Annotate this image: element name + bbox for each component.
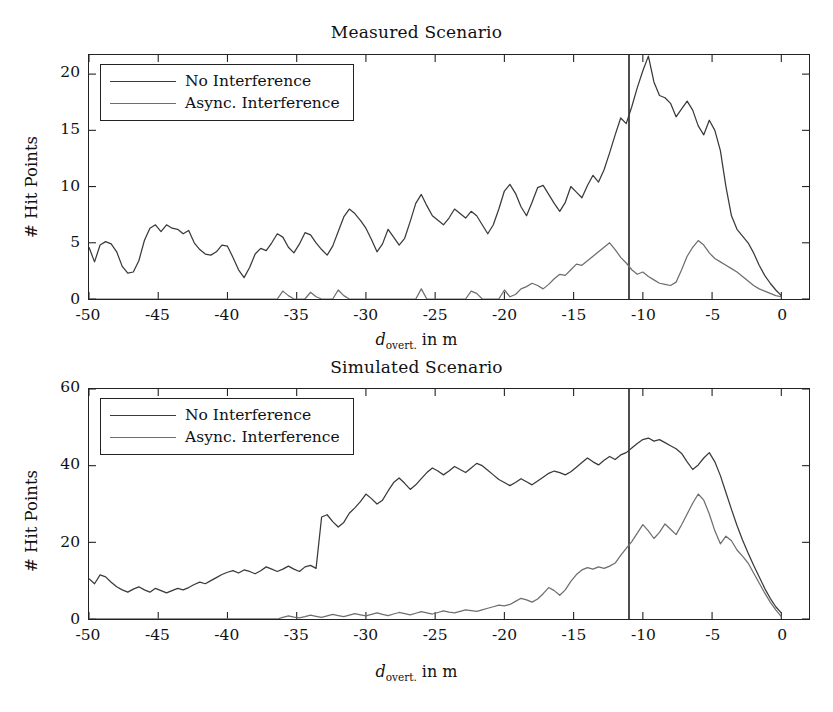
x-tick-label: 0 — [756, 306, 808, 324]
x-tick-label: -15 — [548, 306, 600, 324]
legend-simulated: No Interference Async. Interference — [100, 398, 354, 455]
x-tick-label: -30 — [340, 306, 392, 324]
data-series-no-interference — [89, 438, 781, 613]
y-tick-label: 40 — [38, 455, 80, 473]
legend-entry-no-interference: No Interference — [110, 70, 344, 92]
data-series-async-interference — [89, 241, 781, 299]
x-axis-label-var: d — [375, 662, 385, 681]
x-axis-label-subscript: overt. — [386, 671, 417, 683]
x-tick-label: -5 — [687, 626, 739, 644]
y-tick-label: 0 — [38, 290, 80, 308]
x-tick-label: -20 — [479, 626, 531, 644]
x-tick-label: -20 — [479, 306, 531, 324]
legend-line-icon-async-interference — [110, 103, 176, 104]
chart-panel-measured: Measured Scenario # Hit Points dovert. i… — [0, 0, 833, 356]
y-tick-label: 0 — [38, 610, 80, 628]
x-tick-label: -35 — [270, 306, 322, 324]
x-tick-label: -10 — [617, 306, 669, 324]
x-tick-label: -25 — [409, 626, 461, 644]
legend-entry-async-interference: Async. Interference — [110, 426, 344, 448]
legend-line-icon-no-interference — [110, 81, 176, 82]
y-tick-label: 15 — [38, 120, 80, 138]
legend-line-icon-no-interference — [110, 415, 176, 416]
legend-entry-no-interference: No Interference — [110, 404, 344, 426]
x-tick-label: 0 — [756, 626, 808, 644]
y-tick-label: 20 — [38, 63, 80, 81]
figure-container: Measured Scenario # Hit Points dovert. i… — [0, 0, 833, 712]
x-tick-label: -45 — [131, 306, 183, 324]
y-tick-label: 20 — [38, 533, 80, 551]
y-axis-label-simulated: # Hit Points — [22, 470, 41, 572]
y-tick-label: 60 — [38, 378, 80, 396]
data-series-async-interference — [89, 494, 781, 619]
legend-label-async-interference: Async. Interference — [185, 428, 340, 446]
x-tick-label: -50 — [62, 626, 114, 644]
x-axis-label-rest: in m — [417, 662, 458, 681]
x-tick-label: -30 — [340, 626, 392, 644]
chart-title-measured: Measured Scenario — [0, 22, 833, 42]
x-tick-label: -40 — [201, 306, 253, 324]
y-tick-label: 10 — [38, 177, 80, 195]
x-tick-label: -5 — [687, 306, 739, 324]
legend-entry-async-interference: Async. Interference — [110, 92, 344, 114]
legend-line-icon-async-interference — [110, 437, 176, 438]
chart-title-simulated: Simulated Scenario — [0, 357, 833, 377]
x-tick-label: -35 — [270, 626, 322, 644]
y-tick-label: 5 — [38, 233, 80, 251]
x-tick-label: -50 — [62, 306, 114, 324]
x-tick-label: -25 — [409, 306, 461, 324]
x-tick-label: -10 — [617, 626, 669, 644]
x-axis-label-simulated: dovert. in m — [0, 662, 833, 683]
x-tick-label: -15 — [548, 626, 600, 644]
chart-panel-simulated: Simulated Scenario # Hit Points dovert. … — [0, 340, 833, 712]
legend-label-async-interference: Async. Interference — [185, 94, 340, 112]
legend-measured: No Interference Async. Interference — [100, 64, 354, 121]
x-tick-label: -45 — [131, 626, 183, 644]
x-tick-label: -40 — [201, 626, 253, 644]
legend-label-no-interference: No Interference — [185, 72, 311, 90]
legend-label-no-interference: No Interference — [185, 406, 311, 424]
